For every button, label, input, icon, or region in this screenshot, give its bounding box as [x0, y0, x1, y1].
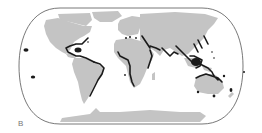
world-map [0, 0, 262, 133]
panel-label: B [18, 119, 23, 128]
